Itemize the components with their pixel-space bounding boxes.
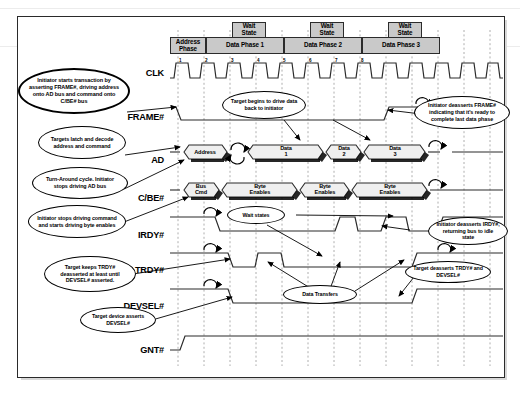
cbe-value-be2-line2: Enables bbox=[307, 189, 343, 195]
cbe-value-be3-line2: Enables bbox=[372, 189, 408, 195]
wait-state-1-line2: State bbox=[242, 30, 257, 37]
cbe-value-buscmd: Bus Cmd bbox=[187, 183, 215, 196]
clock-number-4: 4 bbox=[257, 58, 260, 63]
callout-target-keeps-trdy-deasserted: Target keeps TRDY# deasserted at least u… bbox=[44, 256, 136, 292]
gnt-waveform bbox=[170, 336, 503, 350]
wait-state-2: Wait State bbox=[310, 22, 344, 38]
clock-number-8: 8 bbox=[361, 58, 364, 63]
callout-initiator-deasserts-frame: Initiator deasserts FRAME# indicating th… bbox=[414, 96, 510, 129]
callout-turn-around-cycle: Turn-Around cycle. Initiator stops drivi… bbox=[32, 167, 128, 199]
cbe-value-be2: Byte Enables bbox=[307, 183, 343, 196]
callout-initiator-stops-driving-command: Initiator stops driving command and star… bbox=[28, 205, 126, 238]
callout-target-deasserts-trdy-devsel: Target deasserts TRDY# and DEVSEL# bbox=[405, 261, 491, 283]
cbe-value-buscmd-line2: Cmd bbox=[187, 189, 215, 195]
signal-label-ad: AD bbox=[108, 155, 164, 165]
ad-value-data1-line2: 1 bbox=[268, 151, 304, 157]
clk-waveform bbox=[170, 63, 503, 78]
callout-wait-states: Wait states bbox=[227, 206, 285, 224]
callout-initiator-deasserts-irdy: Initiator deasserts IRDY#, returning bus… bbox=[428, 217, 508, 245]
callout-target-device-asserts-devsel: Target device asserts DEVSEL# bbox=[80, 307, 156, 333]
phase-data-3: Data Phase 3 bbox=[362, 37, 440, 54]
ad-value-data2-line2: 2 bbox=[328, 151, 360, 157]
ad-value-data3: Data 3 bbox=[378, 145, 412, 158]
clock-number-1: 1 bbox=[179, 58, 182, 63]
clock-number-7: 7 bbox=[335, 58, 338, 63]
callout-targets-latch-decode: Targets latch and decode address and com… bbox=[38, 126, 126, 159]
wait-state-3-line2: State bbox=[398, 30, 413, 37]
signal-label-gnt: GNT# bbox=[104, 345, 164, 355]
wait-state-2-line2: State bbox=[320, 30, 335, 37]
cbe-value-be1: Byte Enables bbox=[242, 183, 278, 196]
ad-value-data3-line2: 3 bbox=[378, 151, 412, 157]
callout-data-transfers: Data Transfers bbox=[283, 285, 357, 304]
clock-number-5: 5 bbox=[283, 58, 286, 63]
ad-value-address-line1: Address bbox=[186, 149, 224, 155]
cbe-value-be1-line2: Enables bbox=[242, 189, 278, 195]
clock-number-2: 2 bbox=[205, 58, 208, 63]
phase-data-2: Data Phase 2 bbox=[284, 37, 362, 54]
ad-value-data2: Data 2 bbox=[328, 145, 360, 158]
wait-state-3: Wait State bbox=[388, 22, 422, 38]
phase-address: Address Phase bbox=[170, 37, 206, 54]
clock-number-3: 3 bbox=[231, 58, 234, 63]
ad-value-data1: Data 1 bbox=[268, 145, 304, 158]
phase-address-line2: Phase bbox=[179, 46, 197, 53]
timing-diagram-page: Address Phase Data Phase 1 Data Phase 2 … bbox=[0, 0, 520, 395]
callout-initiator-starts-transaction: Initiator starts transaction by assertin… bbox=[18, 68, 130, 114]
cbe-value-be3: Byte Enables bbox=[372, 183, 408, 196]
phase-data-1: Data Phase 1 bbox=[206, 37, 284, 54]
signal-label-frame: FRAME# bbox=[88, 112, 164, 122]
clock-number-6: 6 bbox=[309, 58, 312, 63]
callout-target-begins-drive-data: Target begins to drive data back to init… bbox=[222, 91, 306, 119]
wait-state-1: Wait State bbox=[232, 22, 266, 38]
ad-value-address: Address bbox=[186, 149, 224, 155]
